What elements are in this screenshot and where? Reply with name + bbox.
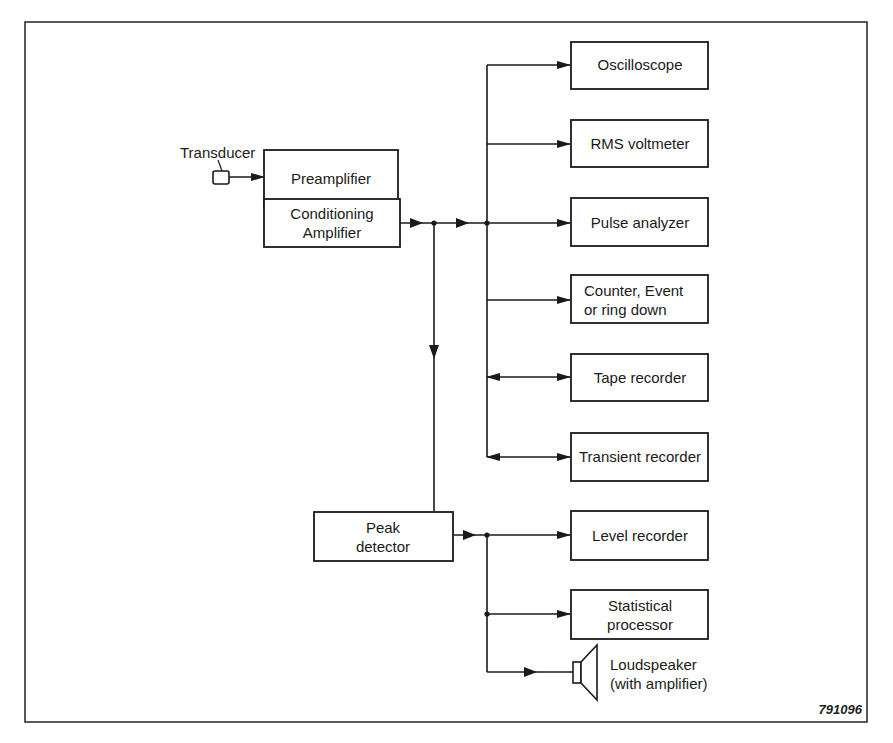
transient-recorder-label: Transient recorder bbox=[579, 448, 701, 465]
transducer-leader-line bbox=[218, 160, 222, 171]
conditioning-label-line2: Amplifier bbox=[303, 224, 361, 241]
oscilloscope-label: Oscilloscope bbox=[597, 56, 682, 73]
preamplifier-label: Preamplifier bbox=[291, 170, 371, 187]
transducer-label: Transducer bbox=[180, 144, 255, 161]
statistical-label-line2: processor bbox=[607, 616, 673, 633]
pulse-analyzer-label: Pulse analyzer bbox=[591, 214, 689, 231]
counter-label-line2: or ring down bbox=[584, 301, 667, 318]
tape-recorder-label: Tape recorder bbox=[594, 369, 687, 386]
statistical-label-line1: Statistical bbox=[608, 597, 672, 614]
level-recorder-label: Level recorder bbox=[592, 527, 688, 544]
loudspeaker-label-line1: Loudspeaker bbox=[610, 656, 697, 673]
loudspeaker-label-line2: (with amplifier) bbox=[610, 675, 708, 692]
figure-frame bbox=[25, 22, 867, 722]
rms-voltmeter-label: RMS voltmeter bbox=[590, 135, 689, 152]
block-diagram: Transducer Preamplifier Conditioning Amp… bbox=[0, 0, 893, 743]
figure-id: 791096 bbox=[819, 702, 863, 717]
peak-label-line2: detector bbox=[356, 538, 410, 555]
loudspeaker-icon bbox=[573, 645, 597, 700]
conditioning-label-line1: Conditioning bbox=[290, 205, 373, 222]
peak-label-line1: Peak bbox=[366, 519, 401, 536]
transducer-icon bbox=[213, 171, 229, 184]
counter-label-line1: Counter, Event bbox=[584, 282, 684, 299]
